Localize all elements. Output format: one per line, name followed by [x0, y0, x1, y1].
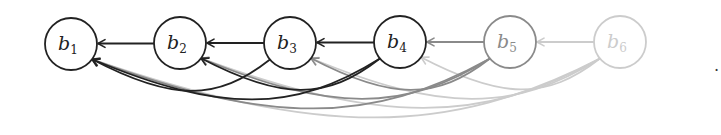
node-b1: b1 [45, 18, 97, 70]
node-b2: b2 [154, 17, 206, 69]
dag-diagram: b1b2b3b4b5b6 [0, 0, 721, 135]
node-b5: b5 [484, 16, 536, 68]
trailing-period: . [714, 56, 719, 75]
edge-b4-b3 [317, 39, 374, 47]
node-b4: b4 [374, 16, 426, 68]
node-b3: b3 [264, 17, 316, 69]
node-b6: b6 [594, 16, 646, 68]
edge-b3-b2 [207, 39, 264, 47]
edge-b2-b1 [98, 40, 154, 48]
edge-b5-b4 [427, 38, 484, 46]
edge-b6-b5 [537, 38, 594, 46]
